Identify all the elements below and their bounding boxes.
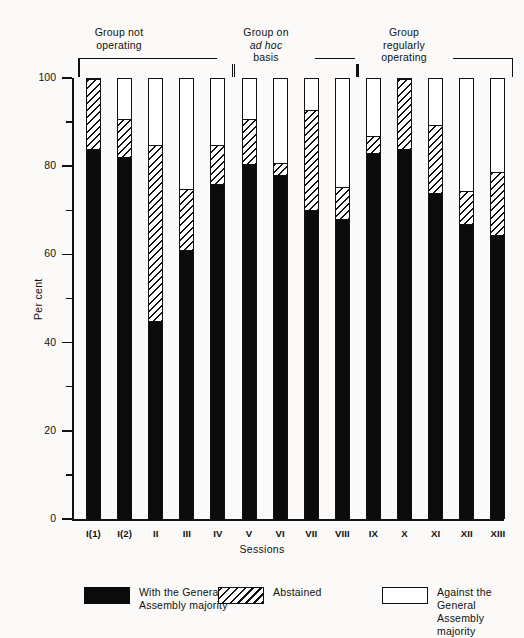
segment-with-majority-XII [460, 225, 473, 520]
legend-label: With the General Assembly majority [139, 586, 228, 612]
bar-XII[interactable] [459, 78, 474, 519]
bar-XIII[interactable] [490, 78, 505, 519]
segment-abstained-VI [274, 163, 287, 176]
label-group-regularly-operating: Groupregularlyoperating [355, 26, 453, 64]
group-label-line: Group not [74, 26, 164, 39]
segment-with-majority-II [149, 322, 162, 520]
segment-with-majority-IX [367, 154, 380, 520]
group-label-line: ad hoc [221, 39, 311, 52]
legend-swatch-hatch [218, 587, 264, 604]
y-tick-minor-90 [66, 121, 72, 123]
segment-with-majority-XI [429, 194, 442, 520]
segment-with-majority-VIII [336, 220, 349, 520]
legend-abstained[interactable]: Abstained [218, 586, 322, 604]
segment-with-majority-I(2) [118, 158, 131, 520]
segment-abstained-I(1) [87, 79, 100, 150]
bar-X[interactable] [397, 78, 412, 519]
y-tick-minor-50 [66, 298, 72, 300]
legend-label: Abstained [273, 586, 322, 599]
x-tick-label-XIII: XIII [478, 528, 517, 539]
bar-XI[interactable] [428, 78, 443, 519]
group-label-line: regularly [359, 39, 449, 52]
segment-abstained-XI [429, 125, 442, 193]
y-tick-major-0 [62, 518, 72, 520]
y-tick-label-40: 40 [22, 336, 56, 348]
segment-abstained-X [398, 79, 411, 150]
group-label-line: Group [359, 26, 449, 39]
bar-VI[interactable] [273, 78, 288, 519]
y-tick-label-80: 80 [22, 159, 56, 171]
segment-abstained-I(2) [118, 119, 131, 159]
y-axis-label: Per cent [32, 278, 44, 320]
plot-area: 020406080100 I(1)I(2)IIIIIIVVVIVIIVIIIIX… [72, 78, 514, 519]
y-tick-label-60: 60 [22, 247, 56, 259]
y-tick-label-20: 20 [22, 424, 56, 436]
bar-VII[interactable] [304, 78, 319, 519]
segment-abstained-IX [367, 136, 380, 154]
segment-with-majority-VII [305, 211, 318, 520]
legend-against-majority[interactable]: Against the General Assembly majority [382, 586, 524, 638]
group-label-line: Group on [221, 26, 311, 39]
segment-abstained-III [180, 189, 193, 251]
y-axis-line [72, 78, 74, 519]
bar-VIII[interactable] [335, 78, 350, 519]
bar-IX[interactable] [366, 78, 381, 519]
label-group-ad-hoc: Group onad hocbasis [217, 26, 315, 64]
y-tick-minor-10 [66, 474, 72, 476]
segment-abstained-XII [460, 191, 473, 224]
bar-III[interactable] [179, 78, 194, 519]
y-tick-major-20 [62, 430, 72, 432]
y-tick-label-0: 0 [22, 512, 56, 524]
segment-with-majority-X [398, 150, 411, 520]
y-tick-label-100: 100 [22, 71, 56, 83]
group-label-line: operating [74, 39, 164, 52]
y-tick-major-40 [62, 342, 72, 344]
bracket-group-not-operating [78, 58, 233, 77]
segment-abstained-V [243, 119, 256, 165]
group-label-line: basis [221, 51, 311, 64]
bar-I(2)[interactable] [117, 78, 132, 519]
segment-with-majority-VI [274, 176, 287, 520]
segment-with-majority-III [180, 251, 193, 520]
segment-abstained-IV [211, 145, 224, 185]
label-group-not-operating: Group notoperating [70, 26, 168, 51]
segment-with-majority-I(1) [87, 150, 100, 520]
y-tick-major-100 [62, 77, 72, 79]
legend-with-majority[interactable]: With the General Assembly majority [84, 586, 228, 612]
y-tick-minor-70 [66, 210, 72, 212]
segment-with-majority-V [243, 165, 256, 520]
segment-with-majority-IV [211, 185, 224, 520]
bar-V[interactable] [242, 78, 257, 519]
segment-abstained-II [149, 145, 162, 321]
x-axis-label: Sessions [0, 543, 524, 555]
segment-abstained-XIII [491, 172, 504, 236]
bar-II[interactable] [148, 78, 163, 519]
segment-abstained-VIII [336, 187, 349, 220]
bar-I(1)[interactable] [86, 78, 101, 519]
y-tick-major-80 [62, 165, 72, 167]
segment-with-majority-XIII [491, 236, 504, 520]
bar-IV[interactable] [210, 78, 225, 519]
y-tick-minor-30 [66, 386, 72, 388]
y-tick-major-60 [62, 254, 72, 256]
legend-swatch-white [382, 587, 428, 604]
segment-abstained-VII [305, 110, 318, 211]
legend-swatch-black [84, 587, 130, 604]
group-label-line: operating [359, 51, 449, 64]
legend-label: Against the General Assembly majority [437, 586, 524, 638]
